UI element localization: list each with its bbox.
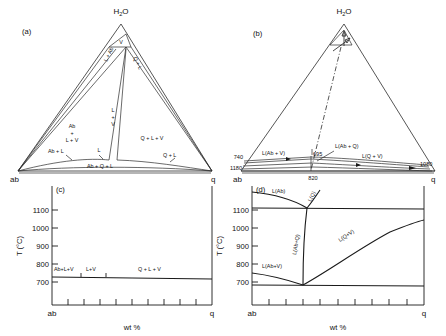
panel-d-y-ticks xyxy=(252,210,258,282)
panel-a-line-ab-v2 xyxy=(18,49,116,171)
panel-c-ytick-1100: 1100 xyxy=(33,206,49,215)
panel-c-field-q-l-v: Q + L + V xyxy=(138,266,161,272)
panel-c-y-axis-label: T (°C) xyxy=(15,235,24,256)
panel-a-field-v: V xyxy=(119,39,123,45)
panel-a-leader-q-l xyxy=(170,158,175,162)
panel-b-right-corner-label: q xyxy=(431,175,435,184)
panel-d-upper-horizontal xyxy=(252,208,424,209)
panel-b-left-corner-label: ab xyxy=(233,175,242,184)
panel-a-field-ab-lv-ab: Ab xyxy=(69,123,76,129)
panel-d-x-right-label: q xyxy=(422,309,426,318)
panel-d-lower-horizontal xyxy=(252,285,424,286)
panel-a-leader-l xyxy=(99,155,103,159)
panel-c-x-right-label: q xyxy=(210,309,214,318)
panel-c-x-axis-label: wt % xyxy=(123,323,141,332)
panel-d-x-ticks xyxy=(269,299,407,305)
panel-b-temp-1180: 1180 xyxy=(230,165,242,171)
panel-c-ytick-700: 700 xyxy=(36,278,49,287)
panel-a-line-lv-right xyxy=(117,49,126,160)
panel-b-temp-695: 695 xyxy=(313,151,322,157)
panel-a-field-q-l: Q + L xyxy=(163,152,176,158)
panel-b-apex-label: H2O xyxy=(336,7,351,17)
panel-d-ytick-1000: 1000 xyxy=(232,224,249,233)
panel-b-temp-820: 820 xyxy=(308,175,317,181)
panel-b-line-2 xyxy=(244,159,311,163)
panel-a-field-ab-lv-lv: L + V xyxy=(66,137,79,143)
panel-c-ytick-900: 900 xyxy=(36,242,49,251)
panel-b-temp-740: 740 xyxy=(234,154,243,160)
panel-a-field-ab-lv-sign: + xyxy=(70,130,73,136)
panel-d-curve-label-l-ab-q: L(Ab+Q) xyxy=(291,234,301,255)
panel-a-field-ab-q-l: Ab + Q + L xyxy=(87,163,113,169)
panel-c-x-ticks xyxy=(68,299,196,305)
panel-d-curve-l-ab-q xyxy=(303,208,307,285)
panel-d-curve-l-q-v xyxy=(303,220,424,285)
panel-d-curve-l-ab xyxy=(252,192,307,208)
panel-d-ytick-900: 900 xyxy=(236,242,249,251)
panel-d-x-axis-label: wt % xyxy=(329,323,347,332)
panel-b-field-l-q-v: L(Q + V) xyxy=(362,153,383,159)
panel-d-x-left-label: ab xyxy=(248,309,257,318)
panel-a-field-ab-l: Ab + L xyxy=(48,148,64,154)
panel-d-curve-label-l-q-v: L(Q+V) xyxy=(337,228,355,243)
panel-a-apex-label: H2O xyxy=(113,7,128,17)
panel-b-tie-arrow-3 xyxy=(409,166,416,170)
panel-c-ytick-1000: 1000 xyxy=(32,224,49,233)
panel-b-field-l-ab-v: L(Ab + V) xyxy=(262,150,285,156)
panel-d-curve-l-ab-v xyxy=(252,273,303,285)
panel-d-ytick-1100: 1100 xyxy=(233,206,249,215)
panel-a-liquidus-right xyxy=(117,160,212,171)
panel-a-leader-ab-l xyxy=(66,155,72,160)
panel-b-temp-1080: 1080 xyxy=(420,161,432,167)
panel-a-field-l: L xyxy=(98,147,101,153)
panel-c-field-l-v: L+V xyxy=(86,266,96,272)
panel-c-label: (c) xyxy=(56,185,65,194)
panel-b-label: (b) xyxy=(253,29,263,38)
panel-b-field-l-ab-q: L(Ab + Q) xyxy=(335,143,359,149)
panel-c: 1100 1000 900 800 700 (c) Ab+L+ xyxy=(15,185,214,332)
panel-b-line-3 xyxy=(243,163,312,166)
panel-b-line-4 xyxy=(242,167,313,169)
panel-d-label: (d) xyxy=(256,185,266,194)
panel-c-field-ab-l-v: Ab+L+V xyxy=(54,266,74,272)
panel-b-tie-arrow-2 xyxy=(356,163,361,167)
panel-a-three-phase-join xyxy=(18,167,212,171)
panel-d-curve-label-l-ab-v: L(Ab+V) xyxy=(262,263,282,269)
panel-d-y-axis-label: T (°C) xyxy=(215,235,224,256)
panel-b: (b) H2O ab q L(Ab + V) L(Ab + Q) L(Q + V… xyxy=(230,7,435,184)
panel-a-left-corner-label: ab xyxy=(10,175,19,184)
panel-a-field-l-plus-v-v: V xyxy=(111,121,115,127)
panel-c-x-left-label: ab xyxy=(48,309,57,318)
panel-a-label: (a) xyxy=(22,27,32,36)
panel-d-curve-label-l-ab: L(Ab) xyxy=(272,188,285,194)
panel-a: (a) H2O ab q V L + Ab Q + L L + V Ab + L… xyxy=(10,7,215,184)
panel-a-right-corner-label: q xyxy=(211,175,215,184)
panel-a-field-l-plus-v-sign: + xyxy=(111,114,114,120)
panel-a-field-l-ab: L + Ab xyxy=(103,46,115,62)
figure-container: (a) H2O ab q V L + Ab Q + L L + V Ab + L… xyxy=(0,0,446,336)
panel-c-solidus-line xyxy=(52,277,212,279)
panel-b-line-1 xyxy=(244,157,311,161)
panel-a-field-q-l-v: Q + L + V xyxy=(141,135,164,141)
panel-d-ytick-800: 800 xyxy=(236,260,249,269)
panel-d: 1100 1000 900 800 700 xyxy=(215,185,426,332)
panel-c-ytick-800: 800 xyxy=(36,260,49,269)
panel-a-field-l-plus-v-l: L xyxy=(112,107,115,113)
panel-d-ytick-700: 700 xyxy=(236,278,249,287)
